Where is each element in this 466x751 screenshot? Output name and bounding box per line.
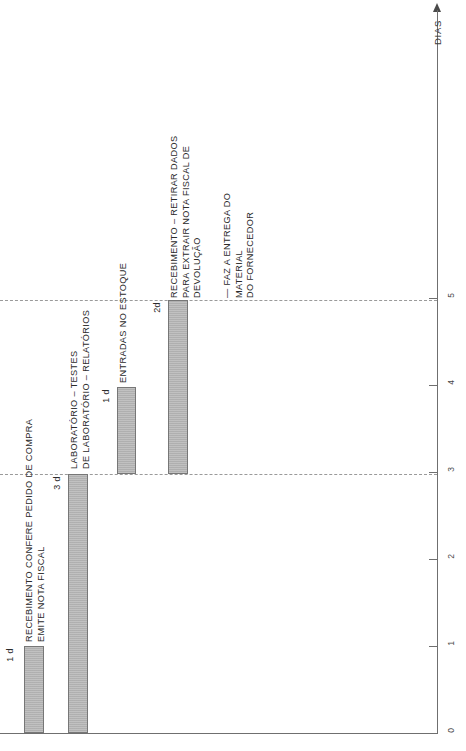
axis-tick-1 [429,646,438,647]
gantt-bar-duration-task-3: 1 d [101,389,111,403]
guide-line-day-5 [0,300,437,301]
axis-tick-2 [429,559,438,560]
axis-tick-label-1: 1 [446,641,456,646]
gantt-task-label-task-4: RECEBIMENTO – RETIRAR DADOS PARA EXTRAIR… [169,133,204,298]
gantt-bar-task-4[interactable] [168,300,188,474]
axis-title-dias: DIAS [432,20,443,45]
gantt-bar-task-3[interactable] [117,387,136,474]
axis-tick-label-5: 5 [446,293,456,298]
guide-line-day-3 [0,474,437,475]
gantt-task-label-task-1: RECEBIMENTO CONFERE PEDIDO DE COMPRA EMI… [24,410,47,642]
axis-tick-0 [429,733,438,734]
gantt-task-label-task-2: LABORATÓRIO – TESTES DE LABORATÓRIO – RE… [69,287,92,469]
axis-tick-label-3: 3 [446,467,456,472]
gantt-bar-task-2[interactable] [68,474,88,733]
gantt-task-label-task-3: ENTRADAS NO ESTOQUE [118,253,130,383]
gantt-bar-duration-task-2: 3 d [52,476,62,490]
gantt-annotation-note-1: — FAZ A ENTREGA DO MATERIAL DO FORNECEDO… [222,148,257,298]
axis-tick-label-2: 2 [446,554,456,559]
axis-tick-4 [429,385,438,386]
axis-tick-label-4: 4 [446,380,456,385]
gantt-bar-duration-task-4: 2d [152,302,162,313]
baseline-axis-line [0,733,438,734]
axis-tick-5 [429,298,438,299]
gantt-bar-task-1[interactable] [24,646,44,733]
axis-tick-label-0: 0 [446,728,456,733]
gantt-bar-duration-task-1: 1 d [5,648,15,662]
time-axis-line [437,10,438,733]
gantt-chart: DIAS 0 1 2 3 4 5 1 d RECEBIMENTO CONFERE… [0,0,466,751]
axis-tick-3 [429,472,438,473]
